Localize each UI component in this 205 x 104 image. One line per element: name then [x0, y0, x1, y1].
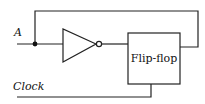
circuit-diagram: A Flip-flop Clock — [0, 0, 205, 104]
inverter-triangle — [63, 29, 96, 62]
inverter-bubble — [96, 41, 101, 46]
clock-label: Clock — [13, 80, 45, 93]
flip-flop-label: Flip-flop — [131, 52, 177, 65]
input-a-label: A — [13, 26, 22, 39]
junction-dot — [33, 42, 38, 47]
